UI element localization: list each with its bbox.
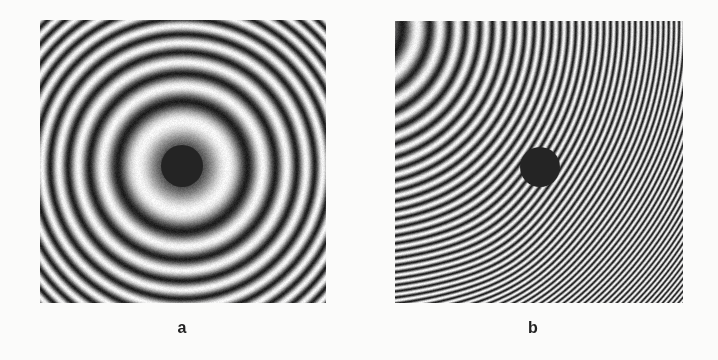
panel-a-center-spot (161, 145, 203, 187)
panel-b-label: b (528, 320, 538, 336)
panel-b-center-spot (520, 147, 560, 187)
panel-a-label: a (178, 320, 187, 336)
